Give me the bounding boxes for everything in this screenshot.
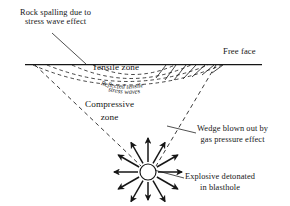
label-wedge-blown-out: Wedge blown out by gas pressure effect <box>197 124 268 145</box>
wedge-right-line <box>156 65 216 166</box>
label-compressive-zone-line2: zone <box>85 111 134 124</box>
label-compressive-zone: Compressivezone <box>85 98 134 125</box>
rock-spalling-leader-line <box>52 33 86 64</box>
label-explosive-detonated: Explosive detonated in blasthole <box>185 172 255 193</box>
arrow-down-left-steep <box>131 181 143 202</box>
label-rock-spalling: Rock spalling due to stress wave effect <box>20 8 91 27</box>
label-compressive-zone-line1: Compressive <box>85 99 134 109</box>
arrow-down-left-shallow <box>118 177 139 189</box>
blast-diagram: Reflected tensile stress waves <box>0 0 290 206</box>
arrow-down-right-steep <box>153 181 165 202</box>
arrow-up-left-steep <box>131 143 143 164</box>
label-free-face: Free face <box>223 47 256 57</box>
hatch-line <box>212 65 223 73</box>
explosive-leader-line <box>154 170 184 178</box>
arrow-up-right-steep <box>153 143 165 164</box>
arrow-down-right-shallow <box>157 177 178 189</box>
label-tensile-zone: Tensile zone <box>92 62 139 72</box>
wedge-leader-line <box>167 126 196 133</box>
arrow-up-right-shallow <box>157 155 178 167</box>
hatch-line <box>183 65 196 79</box>
blasthole-circle <box>140 164 156 180</box>
